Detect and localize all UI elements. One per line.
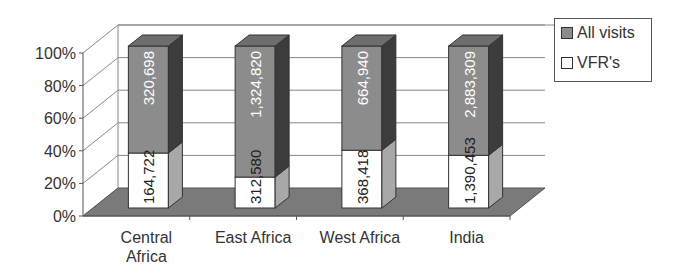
data-label-vfrs: 368,418 [354, 150, 371, 204]
y-tick-label: 0% [53, 208, 76, 225]
y-tick-label: 60% [44, 110, 76, 127]
x-category-label: East Africa [215, 229, 292, 246]
legend-label-vfrs: VFR's [577, 54, 620, 72]
vfrs-swatch-icon [561, 57, 573, 69]
bar-side-all-visits [275, 35, 289, 177]
legend-label-all-visits: All visits [577, 24, 635, 42]
y-tick-label: 40% [44, 143, 76, 160]
y-tick-label: 100% [35, 45, 76, 62]
x-category-label: India [449, 229, 484, 246]
side-wall-gridline [83, 90, 118, 118]
data-label-vfrs: 1,390,453 [461, 137, 478, 204]
all-visits-swatch-icon [561, 27, 573, 39]
data-label-all-visits: 2,883,309 [461, 51, 478, 118]
side-wall-gridline [83, 58, 118, 86]
legend: All visits VFR's [554, 18, 652, 82]
data-label-all-visits: 320,698 [140, 51, 157, 105]
side-wall-gridline [83, 155, 118, 183]
data-label-vfrs: 164,722 [140, 150, 157, 204]
side-wall-gridline [83, 123, 118, 151]
bar-side-all-visits [382, 35, 396, 150]
x-category-label: West Africa [320, 229, 401, 246]
bar-side-all-visits [489, 35, 503, 155]
legend-item-vfrs: VFR's [561, 54, 620, 72]
bar-side-vfrs [382, 139, 396, 208]
y-tick-label: 20% [44, 175, 76, 192]
bar-side-all-visits [168, 35, 182, 153]
x-category-label: Central [121, 229, 173, 246]
data-label-all-visits: 1,324,820 [247, 51, 264, 118]
data-label-vfrs: 312,580 [247, 150, 264, 204]
side-wall-gridline [83, 25, 118, 53]
data-label-all-visits: 664,940 [354, 51, 371, 105]
legend-item-all-visits: All visits [561, 24, 635, 42]
x-category-label: Africa [126, 248, 167, 265]
y-tick-label: 80% [44, 78, 76, 95]
